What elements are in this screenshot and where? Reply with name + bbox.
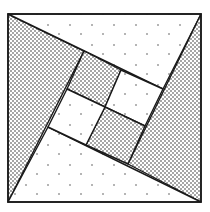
regions-group bbox=[8, 14, 201, 202]
pinwheel-diagram bbox=[0, 0, 210, 212]
